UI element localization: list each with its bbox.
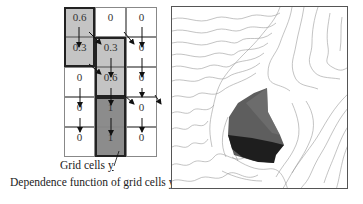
grid-cell-value: 0: [139, 101, 145, 113]
grid-cell: 0: [126, 127, 157, 157]
grid-cell: 0: [126, 7, 157, 37]
dependent-region: [228, 88, 284, 163]
shaded-cell-outline: [64, 7, 95, 67]
shaded-cell-outline: [95, 37, 126, 97]
grid-cell-value: 0: [139, 131, 145, 143]
grid-cell-value: 0: [108, 11, 114, 23]
contour-lines: [172, 7, 348, 189]
grid-cell: 0: [126, 67, 157, 97]
grid-cells-label: Grid cells y: [60, 159, 114, 171]
grid-cell-value: 0: [77, 131, 83, 143]
grid-cell: 0: [95, 7, 126, 37]
contour-map: [171, 6, 348, 189]
grid-cell-value: 0: [139, 71, 145, 83]
grid-cell-value: 0: [77, 71, 83, 83]
dependence-grid: 0.6000.30.3000.60010010: [64, 7, 157, 157]
grid-cell: 0: [126, 97, 157, 127]
grid-cell: 0: [126, 37, 157, 67]
grid-cell-value: 0: [139, 11, 145, 23]
grid-cell: 0: [64, 67, 95, 97]
grid-cell: 0: [64, 127, 95, 157]
grid-cell-value: 0: [77, 101, 83, 113]
dependence-function-label: Dependence function of grid cells y: [10, 176, 174, 188]
shaded-cell-outline: [95, 97, 126, 157]
grid-cell: 0: [64, 97, 95, 127]
grid-cell-value: 0: [139, 41, 145, 53]
